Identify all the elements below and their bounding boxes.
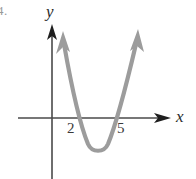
parabola-curve [64,44,136,151]
x-intercept-label-5: 5 [117,121,125,136]
x-intercept-label-2: 2 [67,121,75,136]
graph-canvas [0,0,196,179]
parabola-figure: 4. y x 2 5 [0,0,196,179]
parabola-left-arrowhead [56,31,70,54]
y-axis-label: y [46,3,54,20]
x-axis-label: x [176,108,184,125]
